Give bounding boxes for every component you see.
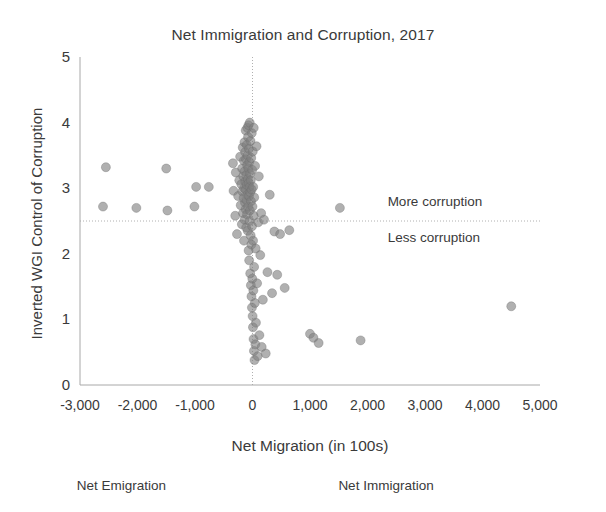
data-point [261, 349, 270, 358]
net-immigration-note: Net Immigration [338, 478, 433, 493]
data-point [260, 215, 269, 224]
plot-area [0, 0, 606, 512]
scatter-chart-figure: Net Immigration and Corruption, 2017 Inv… [0, 0, 606, 512]
y-tick-label: 4 [44, 115, 70, 130]
data-point [204, 182, 213, 191]
data-point [335, 203, 344, 212]
data-point [99, 202, 108, 211]
data-point [101, 163, 110, 172]
data-point [228, 159, 237, 168]
data-point [253, 352, 262, 361]
data-point [273, 270, 282, 279]
y-tick-label: 5 [44, 49, 70, 64]
data-point [268, 289, 277, 298]
data-point [251, 161, 260, 170]
data-point [265, 190, 274, 199]
data-point [251, 318, 260, 327]
less-corruption-note: Less corruption [388, 230, 480, 245]
data-point [252, 142, 261, 151]
data-point [254, 172, 263, 181]
data-point [255, 331, 264, 340]
data-point [190, 202, 199, 211]
data-point [285, 226, 294, 235]
data-point [253, 279, 262, 288]
data-point [232, 230, 241, 239]
y-tick-label: 0 [44, 377, 70, 392]
data-point [280, 283, 289, 292]
net-emigration-note: Net Emigration [77, 478, 166, 493]
data-point [163, 206, 172, 215]
data-point [162, 164, 171, 173]
data-point [192, 182, 201, 191]
y-tick-label: 1 [44, 311, 70, 326]
data-point [314, 339, 323, 348]
y-tick-label: 2 [44, 246, 70, 261]
data-point [250, 299, 259, 308]
data-point [276, 230, 285, 239]
data-point [507, 302, 516, 311]
data-point [249, 182, 258, 191]
data-point [356, 336, 365, 345]
data-point [263, 268, 272, 277]
data-point [250, 193, 259, 202]
data-point [132, 203, 141, 212]
data-point [256, 251, 265, 260]
more-corruption-note: More corruption [388, 194, 483, 209]
data-point [249, 123, 258, 132]
data-point [258, 295, 267, 304]
x-tick-label: 5,000 [500, 398, 580, 412]
data-point [250, 262, 259, 271]
y-tick-label: 3 [44, 180, 70, 195]
data-point [248, 202, 257, 211]
